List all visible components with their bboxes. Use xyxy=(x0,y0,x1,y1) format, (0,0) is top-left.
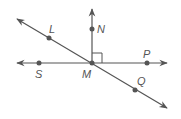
geometry-diagram: L N M P S Q xyxy=(0,0,181,119)
point-P xyxy=(145,61,150,66)
label-S: S xyxy=(35,68,43,80)
point-S xyxy=(37,61,42,66)
label-M: M xyxy=(82,68,92,80)
label-P: P xyxy=(143,48,151,60)
label-Q: Q xyxy=(137,75,146,87)
point-L xyxy=(47,36,52,41)
point-N xyxy=(90,27,95,32)
label-N: N xyxy=(97,23,105,35)
label-L: L xyxy=(49,23,55,35)
point-Q xyxy=(133,88,138,93)
point-M xyxy=(90,61,95,66)
